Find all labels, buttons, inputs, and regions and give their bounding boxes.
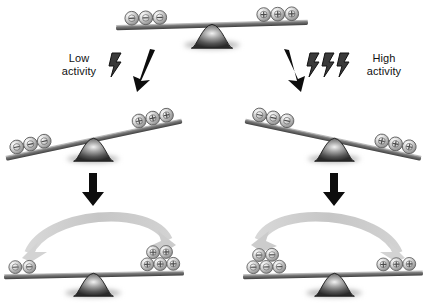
diagram-svg bbox=[0, 0, 425, 304]
diagonal-arrow-left bbox=[133, 49, 155, 92]
scale-middle-left bbox=[3, 106, 183, 163]
label-high-activity: High activity bbox=[355, 52, 413, 77]
down-arrow-right bbox=[323, 173, 345, 206]
label-low-activity: Low activity bbox=[50, 52, 108, 77]
sphere-group-bl-left bbox=[9, 260, 36, 273]
lightning-bolt-high-3 bbox=[337, 53, 349, 77]
diagram-canvas: Low activity High activity bbox=[0, 0, 425, 304]
sphere-pile-bl-right bbox=[140, 245, 179, 271]
sphere-group-br-right bbox=[377, 257, 416, 271]
sphere-group-top-right bbox=[257, 7, 299, 22]
lightning-bolt-low-1 bbox=[109, 53, 121, 77]
scale-middle-right bbox=[244, 106, 424, 163]
down-arrow-left bbox=[82, 173, 104, 206]
sphere-pile-br-left bbox=[246, 248, 285, 274]
diagonal-arrow-right bbox=[284, 49, 305, 92]
scale-top bbox=[116, 6, 308, 49]
lightning-bolt-high-2 bbox=[322, 53, 334, 77]
lightning-bolt-high-1 bbox=[307, 53, 319, 77]
sphere-group-top-left bbox=[125, 10, 167, 25]
